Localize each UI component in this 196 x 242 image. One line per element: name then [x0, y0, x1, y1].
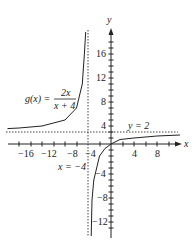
horizontal-asymptote-label: y = 2: [127, 120, 149, 131]
svg-text:−8: −8: [97, 192, 108, 203]
curve-left-branch: [8, 32, 86, 129]
y-tick-labels: 16 12 8 4 −4 −8 −12: [92, 48, 108, 227]
svg-text:−16: −16: [18, 148, 34, 159]
svg-text:4: 4: [132, 148, 137, 159]
function-label-numerator: 2x: [61, 87, 71, 98]
function-graph: y x g(x) = 2x x + 4 y = 2 x = −4 −16 −12…: [0, 0, 196, 242]
vertical-asymptote-label: x = −4: [57, 161, 86, 172]
svg-text:4: 4: [101, 120, 106, 131]
function-label: g(x) = 2x x + 4: [25, 87, 76, 111]
x-axis-label: x: [183, 138, 189, 149]
x-tick-labels: −16 −12 −8 −4 4 8: [18, 148, 160, 159]
svg-text:12: 12: [96, 72, 106, 83]
x-axis-arrow-icon: [175, 142, 182, 147]
svg-text:−12: −12: [92, 216, 108, 227]
svg-text:16: 16: [96, 48, 106, 59]
svg-text:8: 8: [101, 96, 106, 107]
svg-text:−4: −4: [95, 168, 106, 179]
y-axis: [109, 28, 114, 238]
svg-text:8: 8: [155, 148, 160, 159]
y-axis-arrow-icon: [109, 28, 114, 35]
function-label-denominator: x + 4: [53, 100, 75, 111]
function-label-lhs: g(x) =: [25, 93, 50, 105]
svg-text:−4: −4: [85, 148, 96, 159]
x-axis: [8, 142, 182, 147]
y-axis-label: y: [106, 14, 112, 25]
svg-text:−8: −8: [67, 148, 78, 159]
svg-text:−12: −12: [41, 148, 57, 159]
